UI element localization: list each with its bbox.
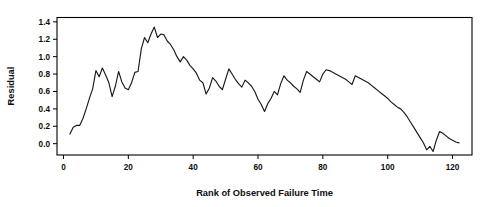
y-tick-label: 0.8 bbox=[39, 70, 51, 79]
x-tick-label: 100 bbox=[381, 163, 395, 172]
y-tick-label: 0.2 bbox=[39, 122, 51, 131]
x-axis-tick-labels: 020406080100120 bbox=[61, 163, 460, 172]
y-tick-label: 0.6 bbox=[39, 87, 51, 96]
x-tick-label: 20 bbox=[124, 163, 134, 172]
y-tick-label: 1.4 bbox=[39, 18, 51, 27]
y-tick-label: 0.0 bbox=[39, 140, 51, 149]
x-tick-label: 120 bbox=[446, 163, 460, 172]
x-tick-label: 60 bbox=[253, 163, 263, 172]
y-axis-ticks bbox=[53, 22, 57, 144]
y-axis-tick-labels: 0.00.20.40.60.81.01.21.4 bbox=[39, 18, 51, 149]
x-axis-title: Rank of Observed Failure Time bbox=[196, 188, 333, 198]
plot-area-frame bbox=[57, 18, 472, 156]
x-tick-label: 0 bbox=[61, 163, 66, 172]
residual-plot-figure: 0.00.20.40.60.81.01.21.4 020406080100120… bbox=[0, 0, 493, 207]
residual-series-line bbox=[70, 27, 459, 151]
x-tick-label: 40 bbox=[189, 163, 199, 172]
y-tick-label: 0.4 bbox=[39, 105, 51, 114]
y-tick-label: 1.2 bbox=[39, 35, 51, 44]
y-tick-label: 1.0 bbox=[39, 53, 51, 62]
x-tick-label: 80 bbox=[318, 163, 328, 172]
y-axis-title: Residual bbox=[6, 67, 16, 106]
chart-canvas: 0.00.20.40.60.81.01.21.4 020406080100120… bbox=[0, 0, 493, 207]
x-axis-ticks bbox=[63, 155, 452, 159]
